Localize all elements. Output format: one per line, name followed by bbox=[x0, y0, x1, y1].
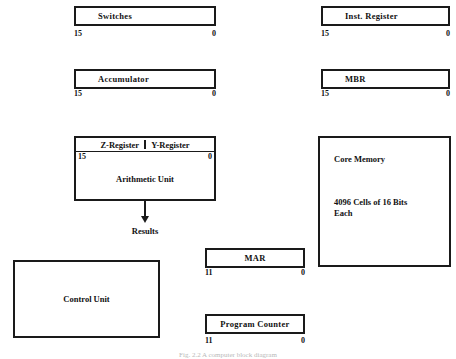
mar-box: MAR bbox=[205, 248, 305, 268]
accumulator-lsb-label: 0 bbox=[176, 90, 216, 98]
z-register-label: Z-Register bbox=[100, 140, 139, 150]
accumulator-box: Accumulator bbox=[74, 69, 216, 89]
arithmetic-unit-label: Arithmetic Unit bbox=[76, 174, 214, 184]
control-unit-box: Control Unit bbox=[13, 260, 160, 338]
switches-msb-label: 15 bbox=[74, 30, 82, 38]
switches-label: Switches bbox=[76, 11, 214, 21]
y-register-label: Y-Register bbox=[151, 140, 189, 150]
zy-register-header: Z-RegisterY-Register bbox=[74, 136, 216, 152]
arithmetic-unit-lsb-label: 0 bbox=[208, 153, 212, 161]
figure-caption: Fig. 2.2 A computer block diagram bbox=[0, 350, 456, 359]
results-arrow-head bbox=[141, 216, 149, 223]
mbr-msb-label: 15 bbox=[321, 90, 329, 98]
inst-register-box: Inst. Register bbox=[321, 6, 450, 26]
accumulator-label: Accumulator bbox=[76, 74, 214, 84]
mar-label: MAR bbox=[207, 253, 303, 263]
mbr-box: MBR bbox=[321, 69, 450, 89]
arithmetic-unit-msb-label: 15 bbox=[78, 153, 86, 161]
inst-register-msb-label: 15 bbox=[321, 30, 329, 38]
computer-block-diagram: Switches 15 0 Inst. Register 15 0 Accumu… bbox=[0, 0, 456, 359]
inst-register-lsb-label: 0 bbox=[410, 30, 450, 38]
switches-lsb-label: 0 bbox=[176, 30, 216, 38]
program-counter-msb-label: 11 bbox=[205, 337, 213, 345]
zy-register-header-text: Z-RegisterY-Register bbox=[100, 140, 189, 150]
inst-register-label: Inst. Register bbox=[323, 11, 448, 21]
mbr-lsb-label: 0 bbox=[410, 90, 450, 98]
register-divider bbox=[144, 140, 146, 149]
mar-lsb-label: 0 bbox=[265, 269, 305, 277]
control-unit-label: Control Unit bbox=[15, 294, 158, 304]
switches-box: Switches bbox=[74, 6, 216, 26]
core-memory-title: Core Memory bbox=[334, 154, 385, 165]
program-counter-box: Program Counter bbox=[205, 314, 305, 334]
mar-msb-label: 11 bbox=[205, 269, 213, 277]
program-counter-label: Program Counter bbox=[207, 319, 303, 329]
core-memory-description: 4096 Cells of 16 Bits Each bbox=[334, 197, 407, 220]
arithmetic-unit-box: 15 0 Arithmetic Unit bbox=[74, 152, 216, 201]
results-label: Results bbox=[105, 226, 185, 236]
mbr-label: MBR bbox=[323, 74, 448, 84]
program-counter-lsb-label: 0 bbox=[265, 337, 305, 345]
core-memory-box: Core Memory 4096 Cells of 16 Bits Each bbox=[318, 136, 451, 267]
accumulator-msb-label: 15 bbox=[74, 90, 82, 98]
